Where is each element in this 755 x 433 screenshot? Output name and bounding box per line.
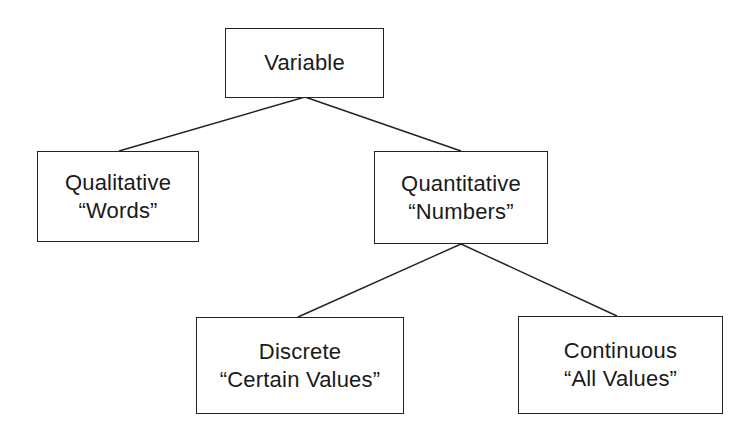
node-discrete-subtitle: “Certain Values”: [220, 366, 381, 394]
node-continuous: Continuous “All Values”: [518, 316, 723, 414]
node-quantitative-subtitle: “Numbers”: [408, 198, 514, 226]
node-discrete: Discrete “Certain Values”: [196, 317, 404, 414]
edge-quantitative-continuous: [461, 244, 617, 316]
node-continuous-title: Continuous: [564, 337, 677, 365]
node-quantitative-title: Quantitative: [401, 170, 521, 198]
edge-variable-quantitative: [305, 97, 461, 151]
node-qualitative-title: Qualitative: [65, 169, 171, 197]
node-qualitative-subtitle: “Words”: [78, 197, 157, 225]
edge-quantitative-discrete: [298, 244, 461, 317]
edge-variable-qualitative: [119, 97, 305, 151]
node-variable-title: Variable: [264, 49, 345, 77]
node-variable: Variable: [225, 28, 384, 98]
node-continuous-subtitle: “All Values”: [564, 365, 677, 393]
node-discrete-title: Discrete: [259, 338, 341, 366]
node-quantitative: Quantitative “Numbers”: [374, 151, 548, 244]
node-qualitative: Qualitative “Words”: [37, 151, 199, 242]
